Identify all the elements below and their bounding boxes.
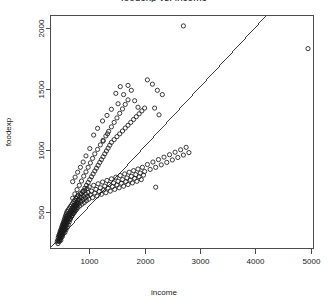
- svg-text:2000: 2000: [137, 257, 155, 266]
- svg-text:1000: 1000: [37, 141, 46, 159]
- scatter-plot-figure: foodexp vs. income 100020003000400050005…: [0, 0, 328, 305]
- svg-text:500: 500: [37, 205, 46, 219]
- svg-text:1000: 1000: [81, 257, 99, 266]
- chart-canvas: 10002000300040005000500100015002000: [0, 0, 328, 305]
- svg-text:5000: 5000: [303, 257, 321, 266]
- svg-text:1500: 1500: [37, 80, 46, 98]
- x-axis-title: income: [0, 288, 328, 297]
- svg-text:3000: 3000: [192, 257, 210, 266]
- svg-text:2000: 2000: [37, 19, 46, 37]
- y-axis-title: foodexp: [4, 118, 13, 146]
- svg-text:4000: 4000: [247, 257, 265, 266]
